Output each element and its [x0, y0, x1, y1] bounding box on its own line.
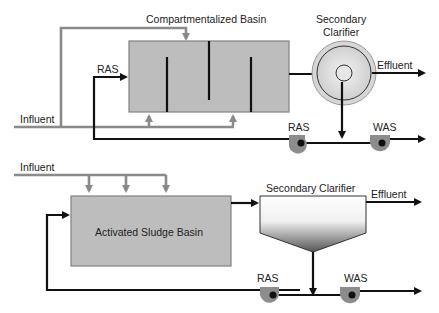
basin-label: Compartmentalized Basin: [146, 13, 266, 25]
was-pump-icon: [370, 135, 390, 151]
influent-label: Influent: [20, 113, 55, 125]
was-pump-label: WAS: [373, 121, 397, 133]
ras-pump-icon: [260, 287, 279, 303]
process-flow-diagram: Compartmentalized Basin Secondary Clarif…: [0, 0, 439, 313]
effluent-label: Effluent: [377, 59, 412, 71]
clarifier-label-line2: Clarifier: [323, 26, 360, 38]
ras-pump-label: RAS: [257, 272, 279, 284]
basin-label: Activated Sludge Basin: [95, 226, 203, 238]
ras-pump-label: RAS: [288, 121, 310, 133]
was-pump-label: WAS: [344, 272, 368, 284]
ras-pump-icon: [289, 135, 307, 153]
influent-label: Influent: [20, 161, 55, 173]
was-pump-icon: [340, 287, 360, 303]
clarifier-label-line1: Secondary: [316, 13, 367, 25]
effluent-label: Effluent: [371, 188, 406, 200]
ras-inlet-label: RAS: [97, 63, 119, 75]
clarifier-label: Secondary Clarifier: [266, 182, 356, 194]
top-diagram: Compartmentalized Basin Secondary Clarif…: [14, 13, 424, 153]
bottom-diagram: Influent Activated Sludge Basin Secondar…: [14, 161, 420, 303]
clarifier-center-well: [336, 65, 352, 81]
secondary-clarifier: [260, 196, 366, 252]
